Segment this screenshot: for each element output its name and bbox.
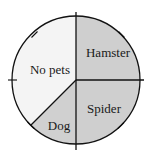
label-hamster: Hamster [86, 45, 131, 60]
label-no-pets: No pets [30, 62, 70, 77]
pie-chart: Hamster Spider Dog No pets [0, 0, 152, 156]
pie-chart-svg: Hamster Spider Dog No pets [0, 0, 152, 156]
label-spider: Spider [87, 101, 122, 116]
label-dog: Dog [48, 118, 71, 133]
